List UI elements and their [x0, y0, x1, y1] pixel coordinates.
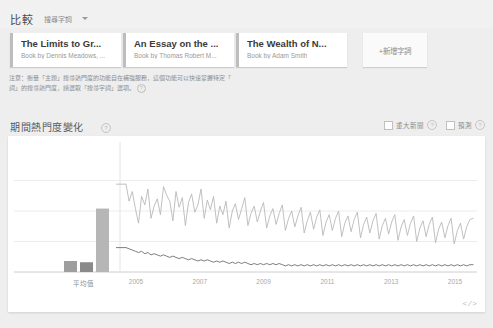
chart-svg: [8, 136, 485, 278]
x-axis-tick: 2009: [256, 278, 270, 285]
note-line-1: 注意：衡量「主題」搜尋熱門度的功能自在補強服務，這個功能可以快速掌握特定「: [9, 75, 231, 81]
chart-x-axis: 平均值200520072009201120132015: [8, 278, 485, 292]
x-axis-tick: 2015: [448, 278, 462, 285]
note-line-2: 詞」的搜尋熱門度，請選取「搜尋字詞」選項。: [9, 85, 135, 91]
term-card-subtitle: Book by Thomas Robert M...: [134, 52, 217, 59]
question-mark-icon[interactable]: ?: [427, 120, 437, 130]
note-text: 注意：衡量「主題」搜尋熱門度的功能自在補強服務，這個功能可以快速掌握特定「 詞」…: [9, 74, 259, 93]
add-term-button[interactable]: +新增字詞: [363, 33, 427, 67]
chart-plot-area[interactable]: [8, 136, 485, 278]
compare-header: 比較 搜尋字詞: [0, 0, 493, 28]
search-type-label[interactable]: 搜尋字詞: [44, 14, 72, 24]
x-axis-tick: 2013: [384, 278, 398, 285]
trends-page: 比較 搜尋字詞 The Limits to Gr... Book by Denn…: [0, 0, 493, 328]
option-forecast-label: 預測: [458, 120, 472, 130]
term-card[interactable]: An Essay on the ... Book by Thomas Rober…: [123, 33, 234, 67]
x-axis-tick: 2011: [320, 278, 334, 285]
section-title: 期間熱門度變化: [10, 119, 84, 134]
chevron-down-icon[interactable]: [82, 17, 88, 20]
term-card-title: The Limits to Gr...: [21, 38, 101, 49]
x-axis-tick: 2005: [129, 278, 143, 285]
checkbox-forecast[interactable]: [446, 121, 455, 130]
trends-chart-card: 平均值200520072009201120132015 </>: [8, 136, 485, 312]
page-title: 比較: [10, 11, 33, 27]
question-mark-icon[interactable]: ?: [475, 120, 485, 130]
option-news-label: 重大新聞: [396, 120, 424, 130]
option-news[interactable]: 重大新聞 ?: [384, 120, 437, 130]
checkbox-news[interactable]: [384, 121, 393, 130]
x-axis-label-average: 平均值: [73, 278, 94, 288]
question-mark-icon[interactable]: ?: [101, 123, 111, 133]
term-card-title: The Wealth of N...: [247, 38, 327, 49]
term-card-subtitle: Book by Adam Smith: [247, 52, 307, 59]
embed-code-icon[interactable]: </>: [463, 299, 477, 308]
term-card-subtitle: Book by Dennis Meadows, ...: [21, 52, 105, 59]
x-axis-tick: 2007: [193, 278, 207, 285]
term-card-title: An Essay on the ...: [134, 38, 218, 49]
chart-options: 重大新聞 ? 預測 ?: [377, 120, 485, 131]
question-mark-icon[interactable]: ?: [137, 84, 146, 93]
term-card[interactable]: The Limits to Gr... Book by Dennis Meado…: [10, 33, 121, 67]
term-card[interactable]: The Wealth of N... Book by Adam Smith: [236, 33, 347, 67]
option-forecast[interactable]: 預測 ?: [446, 120, 485, 130]
